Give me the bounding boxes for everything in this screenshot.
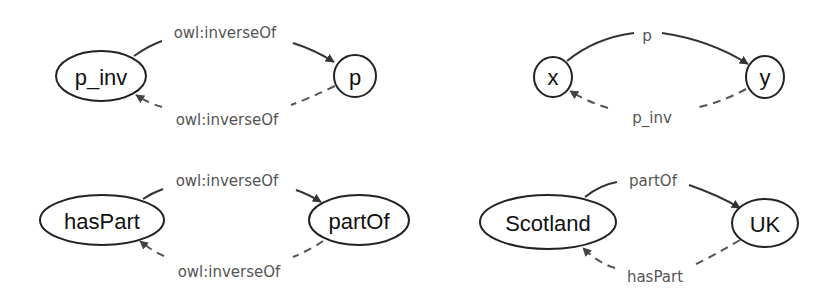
edge-dashed [695,89,746,108]
edge-solid [134,41,162,56]
edge-solid-arrow [662,33,748,64]
node-label: p_inv [75,65,128,90]
edge-label: owl:inverseOf [176,111,279,129]
edge-label: owl:inverseOf [178,263,281,281]
edge-label: hasPart [627,268,683,286]
edge-dashed-arrow [583,248,615,268]
node-label: p [349,65,361,90]
diagram-haspart-partof-definition: hasPart partOf owl:inverseOf owl:inverse… [40,172,409,281]
edge-solid-arrow [689,185,740,208]
edge-solid [585,182,617,197]
edge-solid [143,189,163,199]
diagram-inverse-definition: p_inv p owl:inverseOf owl:inverseOf [56,24,376,129]
diagram-scotland-uk-instance: Scotland UK partOf hasPart [480,172,798,286]
edge-dashed [291,86,335,105]
diagram-inverse-instance: x y p p_inv [534,27,784,128]
edge-label: p_inv [632,109,672,128]
node-label: x [548,65,559,90]
edge-dashed [692,240,740,266]
node-label: partOf [328,209,390,234]
edge-dashed-arrow [136,95,162,107]
edge-dashed [293,241,323,257]
edge-solid-arrow [293,43,334,62]
edge-dashed-arrow [570,91,608,108]
node-label: Scotland [505,211,591,236]
edge-label: owl:inverseOf [174,24,277,42]
diagram-canvas: p_inv p owl:inverseOf owl:inverseOf x y … [0,0,827,301]
edge-solid [567,33,634,61]
node-label: hasPart [64,209,140,234]
node-label: y [760,65,771,90]
edge-label: partOf [629,172,678,190]
edge-dashed-arrow [140,241,164,256]
edge-label: p [642,27,652,45]
edge-solid-arrow [296,190,321,202]
node-label: UK [750,212,781,237]
edge-label: owl:inverseOf [176,172,279,190]
